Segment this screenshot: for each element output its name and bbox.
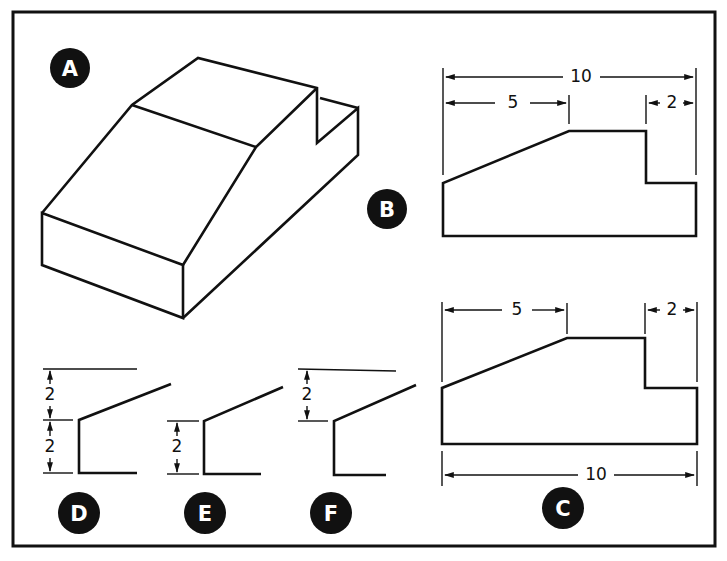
dim-c-notch: 2 [667,299,678,319]
badge-b: B [367,189,407,229]
dim-b-slope: 5 [508,92,519,112]
svg-text:B: B [379,198,395,222]
figure-canvas: A 10 5 2 B 5 2 10 [0,0,727,561]
badge-a: A [50,48,90,88]
dim-b-overall: 10 [570,66,592,86]
dim-d-upper: 2 [45,384,56,404]
dim-d-lower: 2 [45,436,56,456]
view-e-option [167,387,283,474]
badge-e: E [184,492,226,534]
view-f-option [298,369,416,475]
dim-c-slope: 5 [512,299,523,319]
dim-f-upper: 2 [302,384,313,404]
badge-c: C [542,487,584,529]
svg-text:C: C [555,497,570,521]
view-a-isometric [42,58,358,318]
svg-text:E: E [198,502,212,526]
view-d-option [43,369,171,473]
badge-d: D [58,492,100,534]
view-b-profile [443,68,696,236]
view-c-profile [442,302,697,486]
svg-text:A: A [62,57,79,81]
badge-f: F [310,492,352,534]
dim-c-overall: 10 [585,464,607,484]
dim-e-lower: 2 [172,436,183,456]
figure-frame [13,12,715,546]
svg-text:D: D [70,502,87,526]
svg-text:F: F [324,502,338,526]
dim-b-notch: 2 [667,92,678,112]
